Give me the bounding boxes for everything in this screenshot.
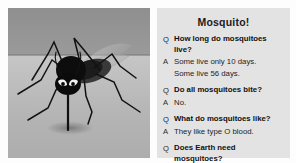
qa-entry: Q How long do mosquitoes live? A Some li… <box>163 34 284 80</box>
qa-entry: Q Does Earth need mosquitoes? A Yes. Man… <box>163 143 284 163</box>
question-row: Q How long do mosquitoes live? <box>163 34 284 55</box>
question-row: Q Does Earth need mosquitoes? <box>163 143 284 163</box>
question-text: How long do mosquitoes live? <box>174 34 284 55</box>
qa-panel: Mosquito! Q How long do mosquitoes live?… <box>157 8 290 158</box>
answer-row: A They like type O blood. <box>163 127 284 138</box>
answer-row: A Some live only 10 days. <box>163 57 284 68</box>
answer-continuation-row: Some live 56 days. <box>163 69 284 80</box>
question-text: Does Earth need mosquitoes? <box>174 143 284 163</box>
answer-text: They like type O blood. <box>174 127 254 138</box>
question-label: Q <box>163 114 174 125</box>
page-title: Mosquito! <box>163 16 284 28</box>
mosquito-image <box>8 8 150 158</box>
question-row: Q Do all mosquitoes bite? <box>163 85 284 96</box>
answer-label: A <box>163 127 174 138</box>
question-label: Q <box>163 85 174 96</box>
answer-text: No. <box>174 98 186 109</box>
answer-text: Some live only 10 days. <box>174 57 256 68</box>
question-label: Q <box>163 143 174 154</box>
page-root: Mosquito! Q How long do mosquitoes live?… <box>0 0 296 163</box>
qa-entry: Q Do all mosquitoes bite? A No. <box>163 85 284 109</box>
answer-label: A <box>163 98 174 109</box>
question-row: Q What do mosquitoes like? <box>163 114 284 125</box>
answer-row: A No. <box>163 98 284 109</box>
qa-entry: Q What do mosquitoes like? A They like t… <box>163 114 284 138</box>
answer-extra-text: Some live 56 days. <box>174 69 240 80</box>
answer-label: A <box>163 57 174 68</box>
mosquito-figure-icon <box>8 8 150 158</box>
question-label: Q <box>163 34 174 45</box>
question-text: Do all mosquitoes bite? <box>174 85 262 96</box>
question-text: What do mosquitoes like? <box>174 114 271 125</box>
